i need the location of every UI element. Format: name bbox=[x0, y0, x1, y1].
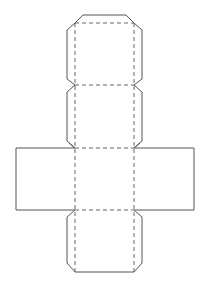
center-top-tick-left bbox=[69, 143, 75, 148]
center-top-tick-right bbox=[134, 143, 140, 148]
top-panel-cut-outline bbox=[67, 15, 142, 85]
upper-panel-right-tab bbox=[134, 85, 142, 148]
top-panel bbox=[67, 15, 142, 85]
upper-panel bbox=[67, 85, 142, 148]
fold-lines bbox=[75, 23, 134, 272]
left-flap bbox=[16, 148, 75, 210]
right-flap bbox=[134, 148, 194, 210]
box-net-diagram bbox=[0, 0, 209, 286]
bottom-panel-cut-outline bbox=[67, 210, 142, 272]
bottom-panel bbox=[67, 210, 142, 272]
upper-panel-left-tab bbox=[67, 85, 75, 148]
side-flaps bbox=[16, 143, 194, 210]
